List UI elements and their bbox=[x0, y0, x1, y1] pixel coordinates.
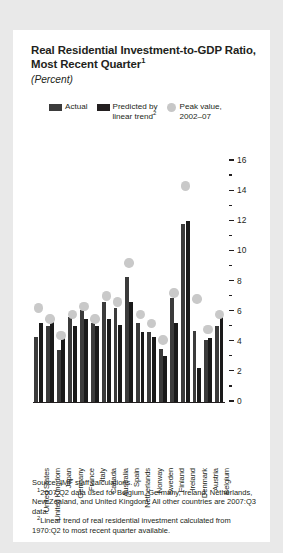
bar-group bbox=[78, 161, 89, 402]
title-line-1: Real Residential Investment-to-GDP Ratio… bbox=[31, 44, 256, 56]
footnote-2: 2Linear trend of real residential invest… bbox=[32, 516, 260, 535]
bar-predicted bbox=[141, 332, 145, 401]
bar-group bbox=[101, 161, 112, 402]
peak-value-dot bbox=[113, 297, 123, 307]
bar-group bbox=[157, 161, 168, 402]
bar-group bbox=[89, 161, 100, 402]
chart-legend: Actual Predicted by linear trend2 Peak v… bbox=[49, 102, 264, 121]
tick-mark-icon bbox=[229, 295, 232, 296]
peak-value-dot bbox=[203, 325, 213, 335]
footnotes-block: Source: IMF staff calculations. 12007:Q2… bbox=[32, 478, 260, 536]
y-tick-label: 10 bbox=[237, 245, 246, 255]
bar-predicted bbox=[61, 338, 65, 401]
title-block: Real Residential Investment-to-GDP Ratio… bbox=[31, 43, 256, 85]
bar-group bbox=[214, 161, 225, 402]
legend-item-actual: Actual bbox=[49, 102, 88, 112]
y-tick-label: 12 bbox=[237, 215, 246, 225]
peak-value-dot bbox=[68, 310, 78, 320]
legend-label-predicted-text: Predicted by linear trend bbox=[113, 102, 158, 121]
bar-predicted bbox=[84, 319, 88, 402]
bar-actual bbox=[136, 323, 140, 401]
tick-mark-icon bbox=[229, 235, 232, 236]
tick-mark-icon bbox=[229, 385, 232, 386]
bar-actual bbox=[68, 317, 72, 401]
tick-mark-icon bbox=[229, 400, 234, 401]
tick-mark-icon bbox=[229, 370, 234, 371]
footnote-1: 12007:Q2 data used for Belgium, Germany,… bbox=[32, 488, 260, 517]
bar-predicted bbox=[129, 302, 133, 401]
title-line-2: Most Recent Quarter bbox=[31, 58, 141, 70]
bar-group bbox=[169, 161, 180, 402]
bar-group bbox=[44, 161, 55, 402]
legend-label-actual: Actual bbox=[65, 102, 88, 112]
footnote-2-text: Linear trend of real residential investm… bbox=[32, 516, 231, 535]
y-tick-label: 8 bbox=[237, 275, 242, 285]
bar-group bbox=[33, 161, 44, 402]
legend-swatch-actual-icon bbox=[49, 104, 62, 111]
bar-group bbox=[112, 161, 123, 402]
chart-card: Real Residential Investment-to-GDP Ratio… bbox=[13, 30, 270, 542]
bar-predicted bbox=[95, 326, 99, 401]
bar-predicted bbox=[152, 337, 156, 402]
tick-mark-icon bbox=[229, 355, 232, 356]
peak-value-dot bbox=[90, 314, 100, 324]
bar-predicted bbox=[186, 221, 190, 402]
bar-predicted bbox=[197, 368, 201, 401]
bar-predicted bbox=[118, 325, 122, 402]
chart-subtitle: (Percent) bbox=[31, 74, 256, 85]
bar-group bbox=[56, 161, 67, 402]
bar-group bbox=[202, 161, 213, 402]
bar-group bbox=[67, 161, 78, 402]
bar-actual bbox=[159, 349, 163, 402]
y-tick-label: 16 bbox=[237, 155, 246, 165]
bars-container bbox=[33, 160, 225, 403]
screenshot-root: Real Residential Investment-to-GDP Ratio… bbox=[0, 0, 283, 553]
bar-actual bbox=[147, 332, 151, 401]
peak-value-dot bbox=[136, 310, 146, 320]
bar-predicted bbox=[220, 317, 224, 401]
bar-actual bbox=[114, 308, 118, 401]
peak-value-dot bbox=[147, 319, 157, 329]
tick-mark-icon bbox=[229, 325, 232, 326]
bar-actual bbox=[181, 224, 185, 402]
peak-value-dot bbox=[102, 291, 112, 301]
bar-predicted bbox=[208, 338, 212, 401]
bar-actual bbox=[80, 310, 84, 402]
bar-actual bbox=[170, 298, 174, 402]
bar-actual bbox=[193, 331, 197, 402]
bar-actual bbox=[34, 337, 38, 402]
bar-group bbox=[180, 161, 191, 402]
y-tick-label: 0 bbox=[237, 396, 242, 406]
chart-plot-area: 0246810121416 bbox=[33, 160, 248, 403]
bar-predicted bbox=[107, 319, 111, 402]
peak-value-dot bbox=[56, 331, 66, 341]
tick-mark-icon bbox=[229, 280, 234, 281]
peak-value-dot bbox=[34, 303, 44, 313]
bar-predicted bbox=[174, 323, 178, 401]
bar-group bbox=[146, 161, 157, 402]
bar-actual bbox=[125, 277, 129, 402]
tick-mark-icon bbox=[229, 174, 232, 175]
tick-mark-icon bbox=[229, 265, 232, 266]
peak-value-dot bbox=[158, 335, 168, 345]
bar-actual bbox=[215, 326, 219, 401]
bar-predicted bbox=[73, 326, 77, 401]
legend-item-peak: Peak value, 2002–07 bbox=[167, 102, 222, 121]
legend-label-peak: Peak value, 2002–07 bbox=[180, 102, 222, 121]
footnote-1-text: 2007:Q2 data used for Belgium, Germany, … bbox=[32, 488, 256, 516]
bar-actual bbox=[204, 340, 208, 402]
tick-mark-icon bbox=[229, 250, 234, 251]
footnote-source: Source: IMF staff calculations. bbox=[32, 478, 260, 488]
tick-mark-icon bbox=[229, 340, 234, 341]
peak-value-dot bbox=[45, 314, 55, 324]
bar-predicted bbox=[39, 323, 43, 401]
peak-value-dot bbox=[169, 288, 179, 298]
bar-predicted bbox=[163, 356, 167, 401]
y-tick-label: 4 bbox=[237, 335, 242, 345]
bar-actual bbox=[46, 326, 50, 401]
tick-mark-icon bbox=[229, 310, 234, 311]
page-title: Real Residential Investment-to-GDP Ratio… bbox=[31, 43, 256, 57]
peak-value-dot bbox=[79, 302, 89, 312]
peak-value-dot bbox=[124, 258, 134, 268]
x-axis-category-labels: United StatesUnited KingdomJapanGermanyF… bbox=[33, 406, 225, 468]
